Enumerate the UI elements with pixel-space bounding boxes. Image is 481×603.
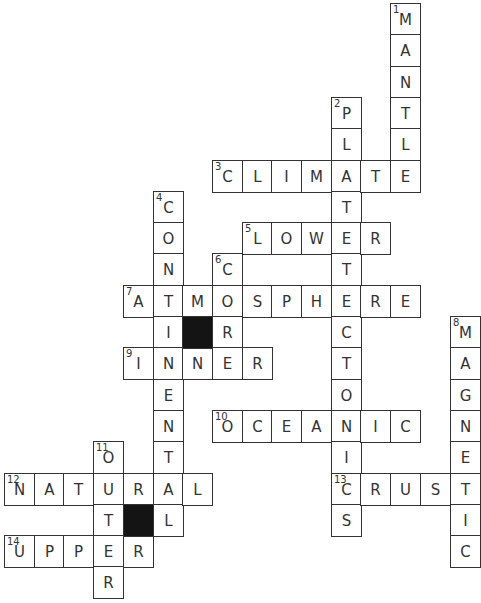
- grid-cell[interactable]: 3C: [212, 160, 243, 193]
- grid-cell[interactable]: 14U: [4, 535, 35, 568]
- grid-cell[interactable]: 1M: [390, 3, 421, 36]
- grid-cell[interactable]: O: [271, 222, 302, 255]
- grid-cell[interactable]: A: [153, 473, 184, 506]
- clue-number: 2: [334, 98, 340, 109]
- grid-cell[interactable]: C: [390, 410, 421, 443]
- grid-cell[interactable]: E: [93, 535, 124, 568]
- grid-cell[interactable]: N: [331, 410, 362, 443]
- grid-cell[interactable]: L: [182, 473, 213, 506]
- grid-cell[interactable]: C: [450, 535, 481, 568]
- grid-cell[interactable]: S: [420, 473, 451, 506]
- grid-cell[interactable]: I: [153, 316, 184, 349]
- grid-cell[interactable]: E: [450, 441, 481, 474]
- grid-cell[interactable]: 2P: [331, 97, 362, 130]
- grid-cell[interactable]: A: [390, 34, 421, 67]
- grid-cell[interactable]: M: [182, 285, 213, 318]
- grid-cell[interactable]: 9I: [123, 347, 154, 380]
- grid-cell[interactable]: W: [301, 222, 332, 255]
- grid-cell[interactable]: T: [331, 253, 362, 286]
- cell-letter: O: [281, 230, 293, 248]
- grid-cell[interactable]: I: [331, 441, 362, 474]
- clue-number: 7: [126, 286, 132, 297]
- grid-cell[interactable]: N: [450, 410, 481, 443]
- grid-cell[interactable]: 13C: [331, 473, 362, 506]
- grid-cell[interactable]: I: [450, 504, 481, 537]
- grid-cell[interactable]: T: [63, 473, 94, 506]
- grid-cell[interactable]: E: [212, 347, 243, 380]
- grid-cell[interactable]: C: [242, 410, 273, 443]
- grid-cell[interactable]: 8M: [450, 316, 481, 349]
- grid-cell[interactable]: A: [301, 410, 332, 443]
- cell-letter: E: [401, 168, 410, 186]
- grid-cell[interactable]: E: [331, 285, 362, 318]
- grid-cell[interactable]: O: [212, 285, 243, 318]
- cell-letter: T: [164, 449, 173, 467]
- grid-cell[interactable]: M: [301, 160, 332, 193]
- grid-cell[interactable]: E: [390, 160, 421, 193]
- grid-cell[interactable]: R: [360, 222, 391, 255]
- grid-cell[interactable]: N: [182, 347, 213, 380]
- grid-cell[interactable]: A: [331, 160, 362, 193]
- grid-cell[interactable]: 10O: [212, 410, 243, 443]
- grid-cell[interactable]: T: [331, 191, 362, 224]
- grid-cell[interactable]: P: [34, 535, 65, 568]
- grid-cell[interactable]: R: [123, 535, 154, 568]
- grid-cell[interactable]: R: [360, 473, 391, 506]
- grid-cell[interactable]: T: [390, 97, 421, 130]
- cell-letter: E: [342, 293, 351, 311]
- grid-cell[interactable]: L: [390, 128, 421, 161]
- cell-letter: A: [163, 481, 173, 499]
- grid-cell[interactable]: 7A: [123, 285, 154, 318]
- grid-cell[interactable]: T: [360, 160, 391, 193]
- grid-cell[interactable]: G: [450, 379, 481, 412]
- grid-cell[interactable]: 12N: [4, 473, 35, 506]
- grid-cell[interactable]: T: [153, 285, 184, 318]
- grid-cell[interactable]: E: [271, 410, 302, 443]
- cell-letter: O: [341, 387, 353, 405]
- grid-cell[interactable]: E: [153, 379, 184, 412]
- grid-cell[interactable]: 6C: [212, 253, 243, 286]
- grid-cell[interactable]: T: [93, 504, 124, 537]
- cell-letter: A: [44, 481, 54, 499]
- grid-cell[interactable]: T: [153, 441, 184, 474]
- grid-cell[interactable]: L: [331, 128, 362, 161]
- grid-cell[interactable]: O: [331, 379, 362, 412]
- grid-cell[interactable]: P: [63, 535, 94, 568]
- grid-cell[interactable]: P: [271, 285, 302, 318]
- grid-cell[interactable]: 5L: [242, 222, 273, 255]
- grid-cell[interactable]: E: [331, 222, 362, 255]
- cell-letter: P: [45, 543, 54, 561]
- grid-cell[interactable]: T: [450, 473, 481, 506]
- cell-letter: E: [223, 355, 232, 373]
- clue-number: 1: [393, 4, 399, 15]
- black-cell: [182, 316, 213, 349]
- grid-cell[interactable]: R: [360, 285, 391, 318]
- grid-cell[interactable]: R: [242, 347, 273, 380]
- grid-cell[interactable]: U: [390, 473, 421, 506]
- grid-cell[interactable]: N: [390, 66, 421, 99]
- grid-cell[interactable]: E: [390, 285, 421, 318]
- grid-cell[interactable]: R: [93, 566, 124, 599]
- grid-cell[interactable]: H: [301, 285, 332, 318]
- grid-cell[interactable]: 11O: [93, 441, 124, 474]
- grid-cell[interactable]: T: [331, 347, 362, 380]
- grid-cell[interactable]: U: [93, 473, 124, 506]
- grid-cell[interactable]: S: [331, 504, 362, 537]
- grid-cell[interactable]: R: [212, 316, 243, 349]
- grid-cell[interactable]: C: [331, 316, 362, 349]
- grid-cell[interactable]: S: [242, 285, 273, 318]
- grid-cell[interactable]: 4C: [153, 191, 184, 224]
- grid-cell[interactable]: I: [271, 160, 302, 193]
- cell-letter: R: [103, 574, 113, 592]
- grid-cell[interactable]: I: [360, 410, 391, 443]
- grid-cell[interactable]: N: [153, 347, 184, 380]
- grid-cell[interactable]: O: [153, 222, 184, 255]
- grid-cell[interactable]: R: [123, 473, 154, 506]
- cell-letter: M: [459, 324, 472, 342]
- grid-cell[interactable]: N: [153, 253, 184, 286]
- grid-cell[interactable]: A: [34, 473, 65, 506]
- grid-cell[interactable]: A: [450, 347, 481, 380]
- grid-cell[interactable]: L: [242, 160, 273, 193]
- grid-cell[interactable]: L: [153, 504, 184, 537]
- grid-cell[interactable]: N: [153, 410, 184, 443]
